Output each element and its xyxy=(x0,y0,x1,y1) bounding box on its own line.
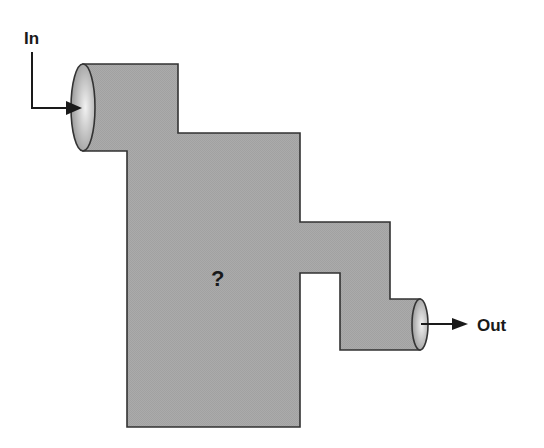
outlet-label: Out xyxy=(477,316,507,335)
flow-diagram: In Out ? xyxy=(0,0,544,448)
unknown-process-label: ? xyxy=(211,266,224,291)
vessel-texture xyxy=(83,64,420,427)
inlet-label: In xyxy=(24,29,39,48)
